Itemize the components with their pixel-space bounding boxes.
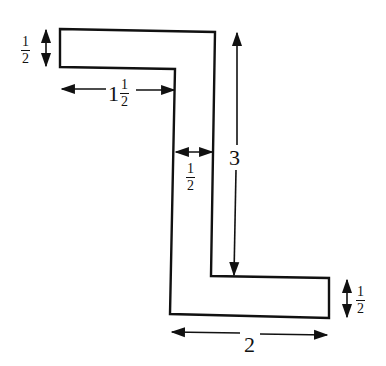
label-height: 3	[229, 147, 240, 169]
z-shape-diagram: 12 1 12 12 3 12 2	[0, 0, 386, 366]
label-top-thickness: 12	[21, 33, 30, 66]
label-bottom-length: 2	[244, 334, 255, 356]
label-top-overhang: 1 12	[106, 78, 131, 109]
label-bottom-thickness: 12	[356, 283, 365, 316]
label-web-width: 12	[186, 160, 195, 193]
